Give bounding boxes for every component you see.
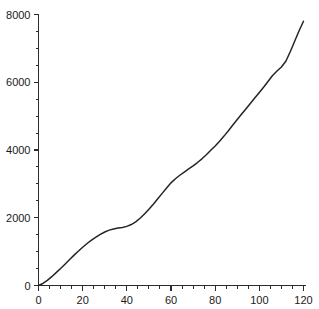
x-tick-label: 20	[77, 294, 89, 306]
line-chart: 02000400060008000 020406080100120	[0, 0, 319, 309]
y-tick-label: 2000	[6, 212, 30, 224]
x-tick-label: 40	[121, 294, 133, 306]
x-tick-label: 80	[209, 294, 221, 306]
x-tick-label: 100	[250, 294, 268, 306]
y-axis-major-ticks	[34, 15, 39, 286]
y-tick-label: 0	[24, 280, 30, 292]
y-tick-label: 4000	[6, 144, 30, 156]
chart-figure: 02000400060008000 020406080100120	[0, 0, 319, 309]
x-tick-label: 0	[35, 294, 41, 306]
x-tick-label: 120	[294, 294, 312, 306]
y-tick-label: 6000	[6, 76, 30, 88]
x-axis-tick-labels: 020406080100120	[35, 294, 312, 306]
data-series-line	[39, 21, 304, 285]
x-tick-label: 60	[165, 294, 177, 306]
x-axis-major-ticks	[39, 286, 304, 291]
y-tick-label: 8000	[6, 9, 30, 21]
y-axis-tick-labels: 02000400060008000	[6, 9, 30, 292]
